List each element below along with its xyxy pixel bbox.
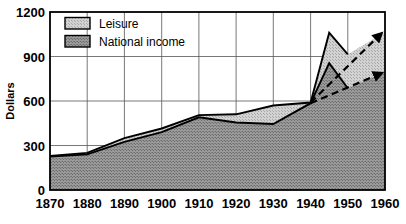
y-tick-600: 600	[23, 94, 45, 109]
legend-swatch-national-income	[65, 36, 90, 48]
x-tick-1890: 1890	[110, 196, 139, 211]
x-axis-tick-labels: 1870 1880 1890 1900 1910 1920 1930 1940 …	[36, 196, 400, 211]
x-tick-1880: 1880	[73, 196, 102, 211]
legend-label-national-income: National income	[99, 35, 185, 49]
legend-label-leisure: Leisure	[99, 17, 139, 31]
legend-swatch-leisure	[65, 18, 90, 30]
x-tick-1940: 1940	[296, 196, 325, 211]
x-tick-1950: 1950	[333, 196, 362, 211]
x-tick-1870: 1870	[36, 196, 65, 211]
x-tick-1920: 1920	[222, 196, 251, 211]
x-tick-1900: 1900	[147, 196, 176, 211]
y-tick-300: 300	[23, 139, 45, 154]
x-tick-1960: 1960	[371, 196, 400, 211]
x-tick-1930: 1930	[259, 196, 288, 211]
x-tick-1910: 1910	[184, 196, 213, 211]
y-tick-900: 900	[23, 50, 45, 65]
y-tick-1200: 1200	[16, 5, 45, 20]
y-axis-title: Dollars	[4, 82, 16, 119]
y-axis-tick-labels: 1200 900 600 300 0	[16, 5, 45, 198]
chart-container: Leisure National income 1200 900 600 300…	[0, 0, 406, 224]
economics-area-chart: Leisure National income 1200 900 600 300…	[0, 0, 406, 224]
